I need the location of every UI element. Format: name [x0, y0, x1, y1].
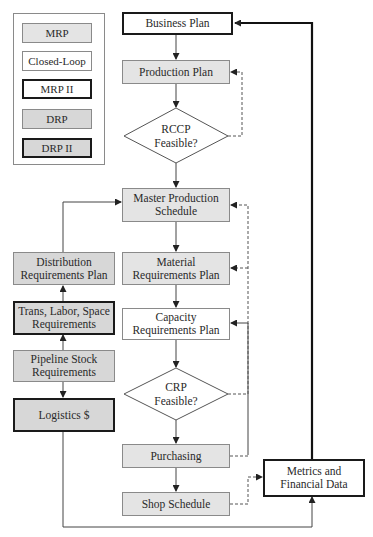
rccp-line2: Feasible?: [134, 136, 218, 150]
trans-line2: Requirements: [32, 318, 96, 331]
pipeline-stock-node: Pipeline Stock Requirements: [13, 350, 115, 382]
logistics-node: Logistics $: [13, 398, 115, 432]
material-requirements-plan-node: Material Requirements Plan: [122, 252, 230, 285]
metrics-line2: Financial Data: [280, 478, 347, 491]
crp-line2: Feasible?: [134, 394, 218, 408]
production-plan-node: Production Plan: [122, 60, 230, 84]
dashed-to-metrics: [230, 477, 262, 504]
pipeline-line2: Requirements: [32, 366, 96, 379]
drp-line1: Distribution: [36, 256, 92, 269]
capacity-requirements-plan-node: Capacity Requirements Plan: [122, 308, 230, 340]
mps-line2: Schedule: [155, 205, 197, 218]
dashed-to-mps: [231, 205, 248, 394]
crp-feasible-label: CRP Feasible?: [134, 380, 218, 408]
purchasing-label: Purchasing: [150, 450, 201, 463]
production-plan-label: Production Plan: [139, 66, 213, 79]
material-line1: Material: [157, 256, 196, 269]
business-plan-node: Business Plan: [122, 12, 233, 35]
capacity-line1: Capacity: [156, 311, 197, 324]
arrow-drp-to-mps: [63, 202, 121, 252]
metrics-line1: Metrics and: [287, 465, 342, 478]
master-production-schedule-node: Master Production Schedule: [122, 188, 230, 222]
arrow-metrics-to-business: [235, 23, 312, 459]
capacity-line2: Requirements Plan: [132, 324, 219, 337]
trans-line1: Trans, Labor, Space: [18, 305, 110, 318]
shop-schedule-node: Shop Schedule: [122, 492, 230, 516]
rccp-line1: RCCP: [134, 122, 218, 136]
crp-line1: CRP: [134, 380, 218, 394]
business-plan-label: Business Plan: [145, 17, 209, 30]
metrics-financial-data-node: Metrics and Financial Data: [263, 459, 365, 497]
dashed-rccp-to-production: [228, 72, 242, 136]
pipeline-line1: Pipeline Stock: [31, 353, 98, 366]
trans-labor-space-node: Trans, Labor, Space Requirements: [13, 301, 115, 335]
arrow-feedback-to-capacity: [231, 323, 248, 455]
purchasing-node: Purchasing: [122, 444, 230, 468]
rccp-feasible-label: RCCP Feasible?: [134, 122, 218, 150]
drp-line2: Requirements Plan: [20, 269, 107, 282]
logistics-label: Logistics $: [39, 409, 90, 422]
shop-schedule-label: Shop Schedule: [142, 498, 211, 511]
distribution-requirements-plan-node: Distribution Requirements Plan: [13, 252, 115, 285]
mps-line1: Master Production: [133, 192, 218, 205]
material-line2: Requirements Plan: [132, 269, 219, 282]
